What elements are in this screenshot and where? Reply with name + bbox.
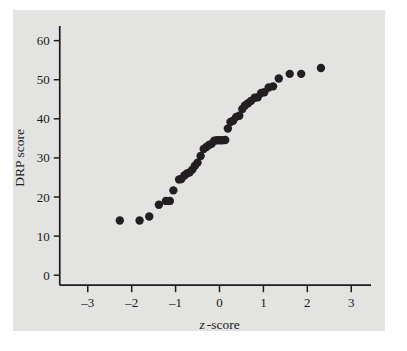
x-tick-label: 1: [260, 295, 267, 310]
data-point: [166, 197, 174, 205]
data-point: [135, 216, 143, 224]
data-point: [221, 136, 229, 144]
data-point: [116, 216, 124, 224]
data-point: [275, 74, 283, 82]
y-tick-label: 50: [37, 72, 50, 87]
x-tick-label: –3: [80, 295, 94, 310]
y-tick-label: 0: [43, 268, 50, 283]
x-axis-title-variable: z: [198, 317, 205, 331]
axes-group: [60, 26, 371, 285]
scatter-plot: 0102030405060–3–2–10123 z-scoreDRP score: [13, 10, 385, 331]
y-axis-title: DRP score: [13, 129, 27, 187]
x-tick-label: –2: [124, 295, 138, 310]
x-tick-label: 0: [216, 295, 223, 310]
data-point: [169, 186, 177, 194]
data-point: [155, 201, 163, 209]
data-point: [145, 212, 153, 220]
tick-group: [54, 41, 351, 293]
y-tick-label: 10: [37, 229, 50, 244]
data-point: [286, 70, 294, 78]
x-tick-label: –1: [168, 295, 182, 310]
y-tick-label: 40: [37, 111, 50, 126]
figure-panel: 0102030405060–3–2–10123 z-scoreDRP score: [13, 10, 385, 331]
x-axis-title: z-score: [198, 317, 239, 331]
y-tick-label: 30: [37, 150, 50, 165]
x-tick-label: 2: [304, 295, 311, 310]
y-tick-label: 20: [37, 190, 50, 205]
data-point: [297, 70, 305, 78]
data-point: [269, 82, 277, 90]
data-point: [317, 64, 325, 72]
data-point-group: [116, 64, 326, 225]
y-tick-label: 60: [37, 33, 50, 48]
x-axis-title-rest: -score: [207, 317, 240, 331]
x-tick-label: 3: [348, 295, 355, 310]
